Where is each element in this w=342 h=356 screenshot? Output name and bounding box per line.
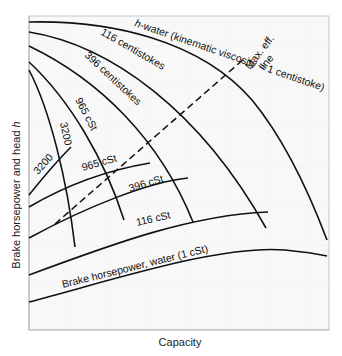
viscosity-performance-chart: h-water (kinematic viscosity = 1 centist… xyxy=(0,0,342,356)
y-axis-label: Brake horsepower and head h xyxy=(10,121,22,268)
x-axis-label: Capacity xyxy=(159,336,202,348)
